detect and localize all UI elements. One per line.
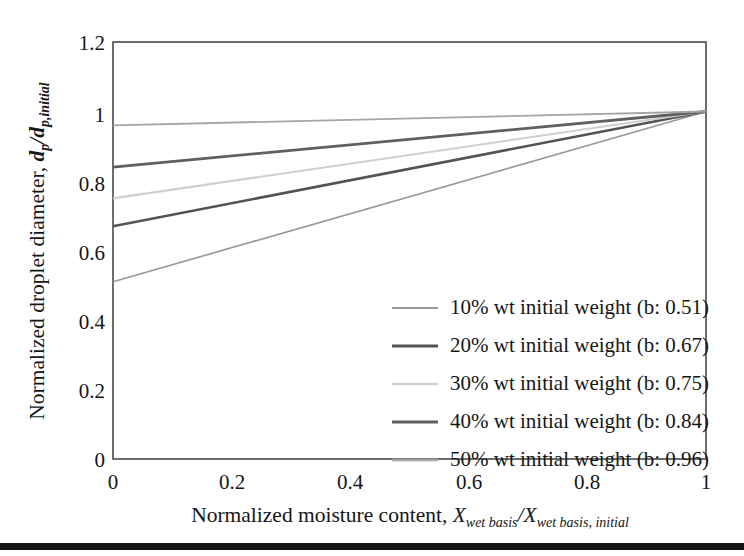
chart-legend: 10% wt initial weight (b: 0.51)20% wt in… [392, 295, 709, 471]
x-axis-title-lead: Normalized moisture content, [191, 503, 453, 527]
svg-text:Normalized moisture content, X: Normalized moisture content, Xwet basis/… [191, 503, 629, 530]
x-axis-title-num: X [452, 503, 467, 527]
x-axis-title-den: X [523, 503, 538, 527]
x-axis-title: Normalized moisture content, Xwet basis/… [191, 503, 629, 530]
line-chart: 1.2 1 0.8 0.6 0.4 0.2 0 0 0.2 0.4 0.6 0.… [0, 0, 744, 556]
y-tick-label: 0 [95, 448, 106, 472]
x-axis-title-den-sub: wet basis, initial [537, 515, 629, 530]
y-axis-title-lead: Normalized droplet diameter, [25, 161, 49, 419]
series-line-2 [113, 112, 706, 227]
x-tick-label: 0.2 [219, 470, 245, 494]
y-tick-label: 1 [95, 103, 106, 127]
plot-frame [113, 42, 706, 459]
series-lines [113, 112, 706, 282]
x-tick-label: 0.4 [337, 470, 364, 494]
series-line-4 [113, 112, 706, 168]
y-tick-label: 0.2 [79, 379, 105, 403]
y-tick-label: 0.8 [79, 172, 105, 196]
x-tick-label: 0.6 [456, 470, 482, 494]
x-tick-label: 0 [108, 470, 119, 494]
y-axis-title-num-sub: p [37, 144, 52, 152]
x-tick-labels: 0 0.2 0.4 0.6 0.8 1 [108, 470, 712, 494]
series-line-3 [113, 112, 706, 199]
legend-label-1: 10% wt initial weight (b: 0.51) [450, 295, 709, 319]
legend-label-4: 40% wt initial weight (b: 0.84) [450, 409, 709, 433]
y-tick-label: 1.2 [79, 31, 105, 55]
y-axis-title-den-sub: p,initial [37, 82, 52, 128]
figure-container: 1.2 1 0.8 0.6 0.4 0.2 0 0 0.2 0.4 0.6 0.… [0, 0, 744, 556]
y-axis-title: Normalized droplet diameter, dp/dp,initi… [25, 82, 52, 420]
legend-label-5: 50% wt initial weight (b: 0.96) [450, 447, 709, 471]
legend-label-3: 30% wt initial weight (b: 0.75) [450, 371, 709, 395]
x-tick-label: 0.8 [574, 470, 600, 494]
y-tick-label: 0.6 [79, 241, 105, 265]
y-tick-labels: 1.2 1 0.8 0.6 0.4 0.2 0 [79, 31, 106, 472]
bottom-rule [0, 543, 744, 550]
series-line-1 [113, 112, 706, 282]
y-tick-label: 0.4 [79, 310, 106, 334]
legend-label-2: 20% wt initial weight (b: 0.67) [450, 333, 709, 357]
svg-text:Normalized droplet diameter, d: Normalized droplet diameter, dp/dp,initi… [25, 82, 52, 420]
x-tick-label: 1 [701, 470, 712, 494]
x-axis-title-num-sub: wet basis [466, 515, 518, 530]
